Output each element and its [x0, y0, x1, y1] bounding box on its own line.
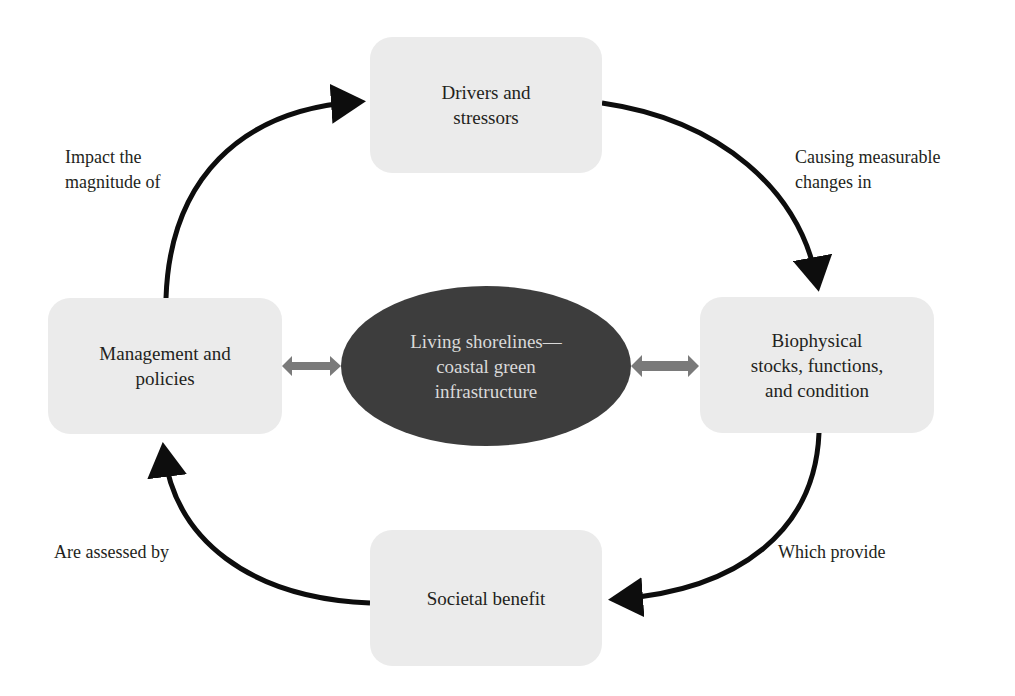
node-label: Biophysical stocks, functions, and condi…	[751, 328, 883, 403]
arrow-management-to-drivers	[166, 102, 356, 298]
arrow-biophysical-to-societal	[618, 433, 819, 599]
node-management-and-policies: Management and policies	[48, 298, 282, 434]
double-arrow-management-center	[282, 356, 341, 376]
center-label: Living shorelines— coastal green infrast…	[410, 329, 561, 404]
node-drivers-and-stressors: Drivers and stressors	[370, 37, 602, 173]
node-biophysical-stocks: Biophysical stocks, functions, and condi…	[700, 297, 934, 433]
cycle-diagram: Drivers and stressors Management and pol…	[0, 0, 1015, 696]
arrow-societal-to-management	[164, 452, 370, 603]
center-living-shorelines: Living shorelines— coastal green infrast…	[341, 286, 631, 446]
edge-label-causing-changes: Causing measurable changes in	[795, 145, 940, 195]
arrow-drivers-to-biophysical	[602, 103, 817, 282]
edge-label-which-provide: Which provide	[778, 540, 885, 565]
node-societal-benefit: Societal benefit	[370, 530, 602, 666]
node-label: Management and policies	[99, 341, 230, 391]
node-label: Drivers and stressors	[441, 80, 530, 130]
node-label: Societal benefit	[427, 586, 546, 611]
edge-label-assessed-by: Are assessed by	[54, 540, 169, 565]
double-arrow-center-biophysical	[631, 355, 699, 377]
edge-label-impact-magnitude: Impact the magnitude of	[65, 145, 160, 195]
